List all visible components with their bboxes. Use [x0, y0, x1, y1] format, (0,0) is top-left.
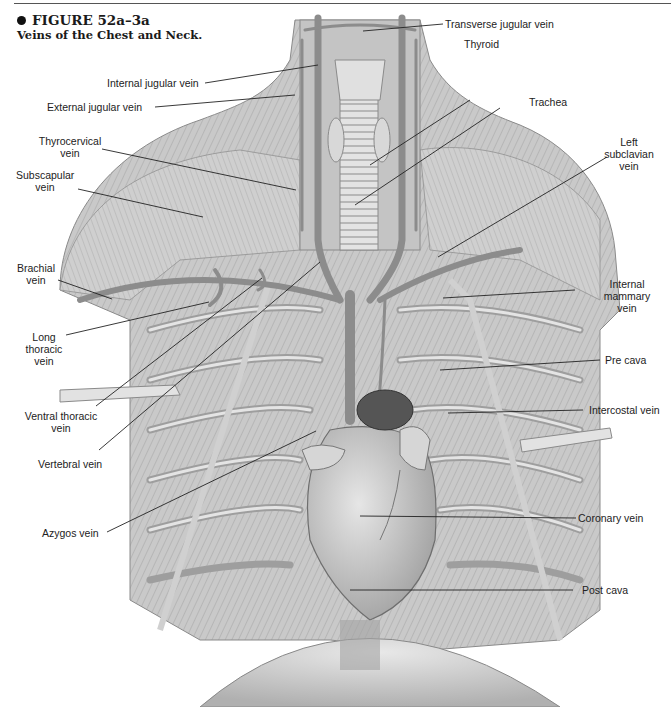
- label-line: subclavian: [598, 148, 660, 160]
- label-ventral-thoracic-vein: Ventral thoracic vein: [20, 410, 102, 434]
- label-line: vein: [24, 355, 64, 367]
- label-line: Long: [24, 331, 64, 343]
- label-line: vein: [16, 181, 74, 193]
- label-brachial-vein: Brachial vein: [16, 262, 56, 286]
- label-coronary-vein: Coronary vein: [578, 512, 643, 524]
- label-internal-mammary-vein: Internal mammary vein: [598, 278, 656, 314]
- label-line: Internal: [598, 278, 656, 290]
- label-line: vein: [36, 147, 104, 159]
- label-line: Ventral thoracic: [20, 410, 102, 422]
- label-long-thoracic-vein: Long thoracic vein: [24, 331, 64, 367]
- label-trachea: Trachea: [529, 96, 567, 108]
- label-line: Left: [598, 136, 660, 148]
- label-line: mammary: [598, 290, 656, 302]
- label-intercostal-vein: Intercostal vein: [589, 404, 660, 416]
- label-line: vein: [598, 302, 656, 314]
- label-line: vein: [16, 274, 56, 286]
- label-external-jugular-vein: External jugular vein: [47, 101, 142, 113]
- label-left-subclavian-vein: Left subclavian vein: [598, 136, 660, 172]
- label-line: vein: [20, 422, 102, 434]
- post-cava-vessel: [340, 620, 380, 670]
- label-vertebral-vein: Vertebral vein: [38, 458, 102, 470]
- label-post-cava: Post cava: [582, 584, 628, 596]
- label-internal-jugular-vein: Internal jugular vein: [107, 77, 199, 89]
- label-thyrocervical-vein: Thyrocervical vein: [36, 135, 104, 159]
- label-line: Subscapular: [16, 169, 74, 181]
- label-thyroid: Thyroid: [464, 38, 499, 50]
- label-line: vein: [598, 160, 660, 172]
- label-pre-cava: Pre cava: [605, 354, 646, 366]
- label-transverse-jugular-vein: Transverse jugular vein: [445, 18, 554, 30]
- label-line: Brachial: [16, 262, 56, 274]
- label-line: thoracic: [24, 343, 64, 355]
- label-azygos-vein: Azygos vein: [42, 527, 99, 539]
- label-subscapular-vein: Subscapular vein: [16, 169, 74, 193]
- label-line: Thyrocervical: [36, 135, 104, 147]
